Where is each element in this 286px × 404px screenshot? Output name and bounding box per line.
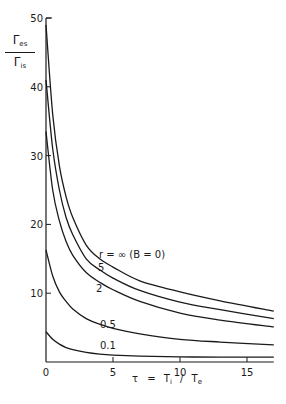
y-tick-label: 50 <box>30 13 43 24</box>
x-tick-label: 5 <box>110 367 116 378</box>
series-curve <box>46 132 274 327</box>
curves <box>46 25 274 357</box>
curve-label: 2 <box>96 283 102 294</box>
y-tick-label: 40 <box>30 82 43 93</box>
series-curve <box>46 25 274 311</box>
x-tick-label: 15 <box>241 367 254 378</box>
y-tick-label: 30 <box>30 151 43 162</box>
y-tick-label: 10 <box>30 288 43 299</box>
x-tick-label: 0 <box>43 367 49 378</box>
curve-label: 0.5 <box>100 319 116 330</box>
curve-label: 0.1 <box>100 340 116 351</box>
series-curve <box>46 332 274 357</box>
chart: 1020304050051015 r = ∞ (B = 0)520.50.1 τ… <box>0 0 286 404</box>
curve-label: 5 <box>98 262 104 273</box>
y-tick-label: 20 <box>30 219 43 230</box>
x-axis-label: τ = Ti / Te <box>132 373 202 386</box>
axes: 1020304050051015 <box>30 13 274 378</box>
series-curve <box>46 80 274 319</box>
curve-label: r = ∞ (B = 0) <box>99 249 165 260</box>
